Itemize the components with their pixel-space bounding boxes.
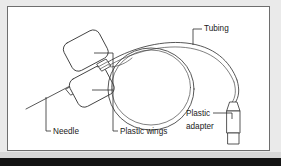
leader-tubing: [193, 29, 202, 45]
medical-device-diagram: Tubing Needle Plastic wings Plastic adap…: [8, 7, 271, 152]
tubing-icon: [108, 42, 239, 130]
screenshot-root: Tubing Needle Plastic wings Plastic adap…: [0, 0, 281, 166]
bottom-dark-band: [0, 158, 281, 166]
plastic-adapter-icon: [227, 102, 240, 144]
label-plastic-adapter-line1: Plastic: [186, 109, 210, 118]
label-tubing: Tubing: [204, 24, 229, 33]
figure-frame: Tubing Needle Plastic wings Plastic adap…: [7, 6, 270, 151]
label-plastic-wings: Plastic wings: [120, 127, 167, 136]
label-needle: Needle: [53, 127, 79, 136]
leader-needle: [46, 97, 51, 131]
plastic-wings-icon: [61, 27, 117, 109]
label-plastic-adapter-line2: adapter: [186, 122, 214, 131]
